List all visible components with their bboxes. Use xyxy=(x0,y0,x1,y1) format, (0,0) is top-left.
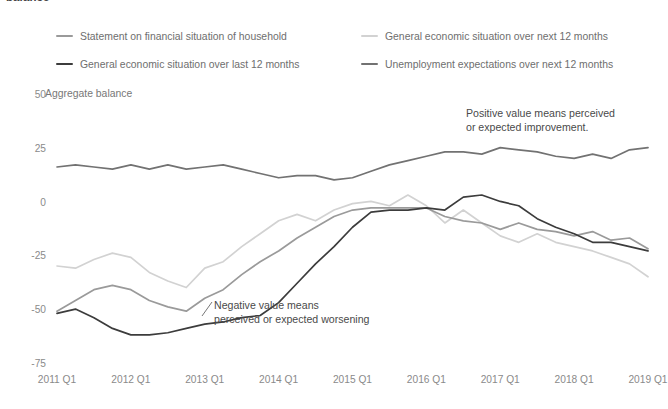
annotation-negative: Negative value means perceived or expect… xyxy=(214,298,369,326)
series-line xyxy=(57,195,648,288)
annotation-positive: Positive value means perceived or expect… xyxy=(466,106,615,134)
series-line xyxy=(57,148,648,180)
negative-annotation-leader-icon xyxy=(202,302,212,316)
series-line xyxy=(57,208,648,311)
